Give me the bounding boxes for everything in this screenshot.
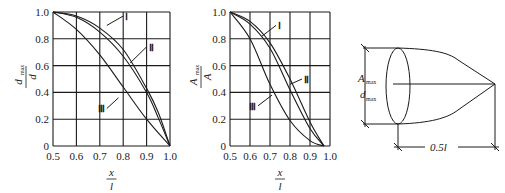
x-tick-label: 0.9 (140, 150, 154, 162)
x-axis-label-numerator: x (108, 166, 114, 178)
y-tick-label: 0.8 (35, 33, 49, 45)
x-tick-label: 0.6 (243, 150, 257, 162)
y-axis-label-numerator: A (187, 78, 199, 86)
y-tick-label: 1.0 (212, 6, 226, 18)
curve-label: Ⅲ (249, 101, 256, 112)
y-axis-label-denominator: d (26, 74, 38, 80)
x-tick-label: 0.8 (283, 150, 297, 162)
figure-canvas: 0.50.60.70.80.91.000.20.40.60.81.0ⅠⅡⅢxld… (0, 0, 505, 193)
cross-section-ellipse (386, 48, 410, 124)
leader-line (107, 16, 123, 25)
label-half-length: 0.5l (430, 141, 447, 153)
y-axis-label: AmaxA (187, 65, 213, 88)
y-axis-label-numerator-sub: max (194, 65, 200, 75)
leader-line (262, 25, 276, 36)
x-axis-label-denominator: l (110, 180, 113, 192)
leader-line (130, 47, 146, 63)
grid (230, 12, 330, 146)
body-outline-bottom (398, 84, 495, 124)
y-tick-label: 0.6 (35, 60, 49, 72)
y-tick-label: 0.4 (212, 86, 226, 98)
y-tick-label: 0.6 (212, 60, 226, 72)
label-a-max: A (357, 72, 365, 84)
x-tick-label: 1.0 (323, 150, 337, 162)
x-tick-label: 0.7 (263, 150, 277, 162)
chart-amax-ratio: 0.50.60.70.80.91.000.20.40.60.81.0ⅠⅡⅢxlA… (187, 6, 337, 192)
curve-iii (53, 12, 170, 146)
y-axis-label-numerator: d (12, 79, 24, 85)
body-outline-top (398, 48, 495, 84)
curve-label: Ⅰ (278, 20, 281, 31)
y-axis-label-denominator: A (201, 73, 213, 81)
x-tick-label: 0.9 (303, 150, 317, 162)
y-axis-label-numerator-sub: max (19, 65, 25, 75)
label-a-max-sub: max (366, 79, 376, 85)
label-d-max-sub: max (366, 96, 376, 102)
y-tick-label: 0.4 (35, 86, 49, 98)
x-axis-label-denominator: l (278, 180, 281, 192)
projectile-diagram (361, 44, 499, 151)
curve-label: Ⅰ (125, 11, 128, 22)
curve-label: Ⅱ (304, 74, 309, 85)
chart-dmax-ratio: 0.50.60.70.80.91.000.20.40.60.81.0ⅠⅡⅢxld… (12, 6, 177, 192)
y-tick-label: 0 (221, 140, 227, 152)
x-tick-label: 0.7 (93, 150, 107, 162)
x-axis-label-numerator: x (277, 166, 283, 178)
leader-line (107, 98, 119, 109)
y-tick-label: 0.8 (212, 33, 226, 45)
y-axis-label: dmaxd (12, 65, 38, 88)
curve-label: Ⅲ (98, 103, 105, 114)
y-tick-label: 0 (44, 140, 50, 152)
x-tick-label: 0.6 (70, 150, 84, 162)
curve-label: Ⅱ (149, 42, 154, 53)
y-tick-label: 1.0 (35, 6, 49, 18)
y-tick-label: 0.2 (212, 113, 226, 125)
x-tick-label: 0.8 (116, 150, 130, 162)
x-tick-label: 1.0 (163, 150, 177, 162)
y-tick-label: 0.2 (35, 113, 49, 125)
